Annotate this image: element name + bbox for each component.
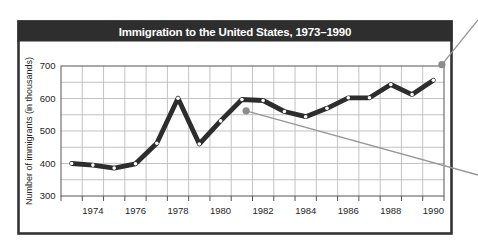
- x-tick-label: 1988: [380, 205, 401, 216]
- data-point-marker: [283, 110, 287, 114]
- data-point-marker: [389, 83, 393, 87]
- data-point-marker: [432, 79, 436, 83]
- data-point-marker: [134, 162, 138, 166]
- y-axis-label: Number of immigrants (in thousands): [24, 57, 34, 205]
- y-tick-label: 400: [40, 158, 56, 169]
- data-point-marker: [410, 93, 414, 97]
- data-point-marker: [240, 98, 244, 102]
- y-tick-label: 600: [40, 93, 56, 104]
- data-point-marker: [198, 142, 202, 146]
- data-point-marker: [368, 96, 372, 100]
- immigration-line-chart: Immigration to the United States, 1973–1…: [0, 0, 478, 252]
- callout-dot: [243, 107, 250, 114]
- y-tick-label: 700: [40, 60, 56, 71]
- data-point-marker: [91, 163, 95, 167]
- x-tick-label: 1986: [338, 205, 359, 216]
- data-point-marker: [112, 166, 116, 170]
- data-point-marker: [304, 115, 308, 119]
- data-point-marker: [325, 107, 329, 111]
- data-point-marker: [176, 96, 180, 100]
- y-tick-label: 300: [40, 190, 56, 201]
- x-tick-label: 1990: [423, 205, 444, 216]
- data-point-marker: [261, 99, 265, 103]
- y-tick-label: 500: [40, 125, 56, 136]
- chart-title: Immigration to the United States, 1973–1…: [119, 26, 351, 38]
- x-tick-label: 1980: [210, 205, 231, 216]
- callout-dot: [438, 61, 445, 68]
- textbook-figure-page: Immigration to the United States, 1973–1…: [0, 0, 478, 252]
- x-tick-label: 1976: [125, 205, 146, 216]
- data-point-marker: [219, 119, 223, 123]
- data-point-marker: [347, 96, 351, 100]
- x-tick-label: 1974: [82, 205, 103, 216]
- x-tick-label: 1982: [253, 205, 274, 216]
- figure-frame: [19, 22, 452, 234]
- x-tick-label: 1978: [167, 205, 188, 216]
- data-point-marker: [70, 162, 74, 166]
- data-point-marker: [155, 142, 159, 146]
- x-tick-label: 1984: [295, 205, 316, 216]
